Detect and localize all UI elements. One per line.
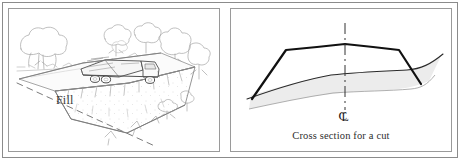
centerline-l-glyph: L — [342, 111, 349, 124]
figure-container: Fill C L Cross section for a cut — [0, 0, 460, 160]
panel-cut-cross-section: C L Cross section for a cut — [230, 8, 452, 152]
tree-icon-group-mid — [104, 25, 131, 56]
tree-icon-group-left — [20, 27, 67, 69]
panel-fill-illustration: Fill — [8, 8, 220, 152]
centerline-symbol: C L — [334, 109, 356, 124]
cross-section-caption: Cross section for a cut — [231, 130, 451, 141]
fill-label: Fill — [56, 93, 73, 108]
fill-sketch-svg — [9, 9, 220, 152]
